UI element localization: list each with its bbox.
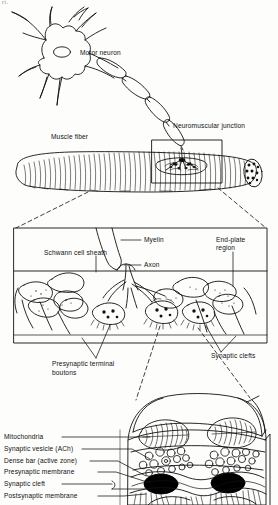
label-myelin: Myelin [144, 236, 164, 244]
bottom-panel-drawing [128, 394, 270, 505]
motor-neuron-drawing [12, 7, 198, 170]
bouton-b [144, 299, 178, 329]
label-synaptic-cleft: Synaptic cleft [4, 480, 45, 488]
label-schwann-cell-sheath: Schwann cell sheath [44, 249, 107, 257]
bouton-a [91, 303, 125, 330]
figure-artwork [0, 0, 278, 505]
label-axon: Axon [144, 261, 160, 269]
label-end-plate-region-line1: End-plate [216, 236, 245, 244]
label-neuromuscular-junction: Neuromuscular junction [173, 122, 245, 130]
label-dense-bar-active-zone: Dense bar (active zone) [4, 457, 77, 465]
nmj-box-top [152, 140, 222, 183]
label-presynaptic-membrane: Presynaptic membrane [4, 468, 74, 476]
label-synaptic-clefts: Synaptic clefts [211, 352, 256, 360]
label-postsynaptic-membrane: Postsynaptic membrane [4, 492, 78, 500]
label-presynaptic-terminal-boutons-line1: Presynaptic terminal [52, 360, 114, 368]
neuromuscular-junction-figure: rt. [0, 0, 278, 505]
label-muscle-fiber: Muscle fiber [51, 133, 88, 141]
label-synaptic-vesicle-ach: Synaptic vesicle (ACh) [4, 445, 73, 453]
muscle-fiber-drawing [16, 152, 264, 192]
label-end-plate-region-line2: region [216, 244, 235, 252]
label-motor-neuron: Motor neuron [80, 49, 121, 57]
mitochondrion-right [207, 418, 256, 448]
label-presynaptic-terminal-boutons-line2: boutons [52, 369, 76, 377]
dense-bar-left [144, 474, 178, 494]
label-mitochondria: Mitochondria [4, 433, 43, 441]
vesicle-cluster-right [205, 448, 259, 476]
